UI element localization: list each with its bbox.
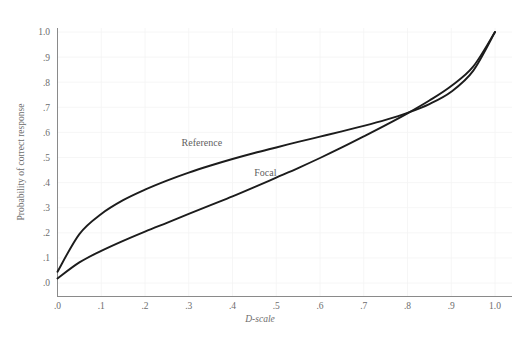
series-label-focal: Focal xyxy=(254,167,276,178)
x-tick-label: 1.0 xyxy=(489,301,501,311)
y-tick-label: .5 xyxy=(43,153,50,163)
y-tick-label: .8 xyxy=(43,78,50,88)
y-tick-label: .1 xyxy=(43,253,50,263)
y-tick-label: 1.0 xyxy=(38,27,50,37)
y-tick-label: .6 xyxy=(43,128,50,138)
y-tick-label: .4 xyxy=(43,178,50,188)
x-tick-label: .1 xyxy=(98,301,105,311)
y-tick-label: .7 xyxy=(43,103,50,113)
x-tick-label: .6 xyxy=(316,301,323,311)
x-tick-label: .3 xyxy=(185,301,192,311)
x-tick-label: .8 xyxy=(404,301,411,311)
x-tick-label: .9 xyxy=(448,301,455,311)
y-tick-label: .2 xyxy=(43,228,50,238)
x-tick-label: .0 xyxy=(54,301,61,311)
x-tick-label: .2 xyxy=(141,301,148,311)
y-tick-label: .9 xyxy=(43,53,50,63)
y-tick-label: .0 xyxy=(43,278,50,288)
y-axis-title: Probability of correct response xyxy=(16,104,26,221)
y-tick-label: .3 xyxy=(43,203,50,213)
x-tick-label: .7 xyxy=(360,301,367,311)
x-axis-title: D-scale xyxy=(244,314,275,324)
x-tick-label: .5 xyxy=(273,301,280,311)
series-label-reference: Reference xyxy=(182,137,223,148)
x-tick-label: .4 xyxy=(229,301,236,311)
chart-figure: .0.1.2.3.4.5.6.7.8.91.0 .0.1.2.3.4.5.6.7… xyxy=(0,0,530,339)
